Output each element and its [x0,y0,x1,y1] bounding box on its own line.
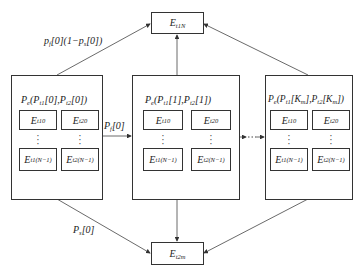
state-box-0: Pe(Pt1[0],Pt2[0]) Et10 Et20 ··· ··· Et1(… [11,75,103,200]
state-title-0: Pe(Pt1[0],Pt2[0]) [21,94,87,106]
cell-t1n: Et1(N−1) [270,148,308,171]
ellipsis-icon: ··· [284,134,294,146]
cell-t10: Et10 [19,110,57,130]
cell-t1n: Et1(N−1) [143,148,183,171]
top-node: Et1N [151,12,204,34]
top-node-sub: t1N [176,22,185,29]
bottom-node: Et2m [151,242,204,265]
ellipsis-icon: ··· [206,134,216,146]
cell-t2n: Et2(N−1) [191,148,231,171]
edge-right-to-top [204,24,308,75]
edge-label-bottom-left: Ps[0] [73,224,94,236]
edge-right-to-bottom [204,199,308,253]
cell-t2n: Et2(N−1) [312,148,350,171]
ellipsis-icon: ··· [33,134,43,146]
cell-t20: Et20 [191,110,231,130]
ellipsis-icon: ··· [326,134,336,146]
cell-t20: Et20 [312,110,350,130]
state-box-2: Pe(Pt1[Km],Pt2[Km]) Et10 Et20 ··· ··· Et… [265,75,353,200]
ellipsis-icon: ··· [158,134,168,146]
state-title-2: Pe(Pt1[Km],Pt2[Km]) [268,94,344,105]
cell-t10: Et10 [270,110,308,130]
cell-t10: Et10 [143,110,183,130]
state-title-1: Pe(Pt1[1],Pt2[1]) [145,94,211,106]
cell-t1n: Et1(N−1) [19,148,57,171]
state-box-1: Pe(Pt1[1],Pt2[1]) Et10 Et20 ··· ··· Et1(… [132,75,240,200]
edge-label-middle-left: Pf[0] [104,120,125,132]
ellipsis-icon: ··· [75,134,85,146]
bottom-node-sub: t2m [176,253,186,260]
edge-left-to-top [57,24,150,75]
edge-label-top-left: pf[0](1−ps[0]) [44,35,102,47]
cell-t2n: Et2(N−1) [61,148,99,171]
cell-t20: Et20 [61,110,99,130]
edge-left-to-bottom [57,199,150,253]
